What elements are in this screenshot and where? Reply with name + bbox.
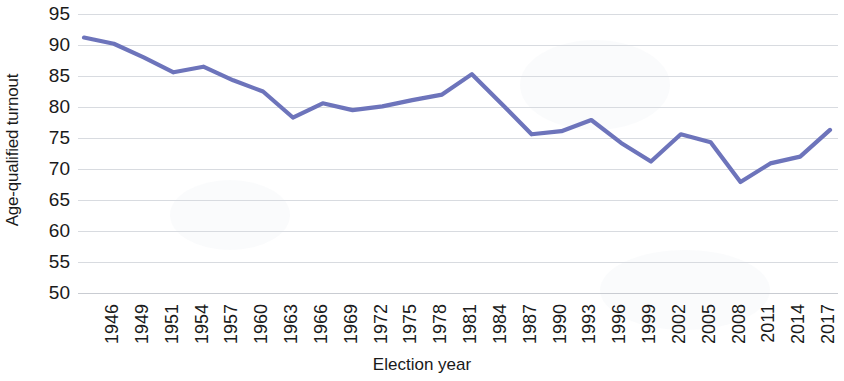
- line-chart: Age-qualified turnout 959085807570656055…: [0, 0, 844, 381]
- y-tick-label-95: 95: [26, 4, 70, 23]
- y-tick-label-75: 75: [26, 128, 70, 147]
- x-tick-label-2008: 2008: [730, 304, 748, 360]
- x-tick-label-1960: 1960: [252, 304, 270, 360]
- y-axis-title: Age-qualified turnout: [2, 0, 24, 300]
- x-tick-label-1946: 1946: [103, 304, 121, 360]
- y-tick-label-70: 70: [26, 159, 70, 178]
- x-tick-label-1990: 1990: [551, 304, 569, 360]
- x-tick-label-1949: 1949: [133, 304, 151, 360]
- y-tick-label-90: 90: [26, 35, 70, 54]
- x-tick-label-1951: 1951: [163, 304, 181, 360]
- x-tick-label-1963: 1963: [282, 304, 300, 360]
- x-tick-label-1993: 1993: [580, 304, 598, 360]
- x-tick-label-2005: 2005: [700, 304, 718, 360]
- y-tick-label-55: 55: [26, 252, 70, 271]
- x-tick-label-1984: 1984: [491, 304, 509, 360]
- x-tick-label-1966: 1966: [312, 304, 330, 360]
- x-tick-label-2011: 2011: [759, 304, 777, 360]
- y-tick-label-60: 60: [26, 221, 70, 240]
- y-tick-label-85: 85: [26, 66, 70, 85]
- x-tick-label-1972: 1972: [372, 304, 390, 360]
- y-tick-label-80: 80: [26, 97, 70, 116]
- x-axis-title: Election year: [0, 355, 844, 375]
- x-tick-label-1978: 1978: [431, 304, 449, 360]
- x-tick-label-2014: 2014: [789, 304, 807, 360]
- x-axis-tick-labels: 1946194919511954195719601963196619691972…: [78, 300, 838, 355]
- turnout-line-series: [78, 0, 838, 300]
- x-tick-label-1987: 1987: [521, 304, 539, 360]
- plot-area: [78, 0, 838, 300]
- x-tick-label-2002: 2002: [670, 304, 688, 360]
- x-tick-label-2017: 2017: [819, 304, 837, 360]
- x-tick-label-1975: 1975: [401, 304, 419, 360]
- x-tick-label-1969: 1969: [342, 304, 360, 360]
- y-tick-label-65: 65: [26, 190, 70, 209]
- x-tick-label-1996: 1996: [610, 304, 628, 360]
- y-axis-tick-labels: 95908580757065605550: [26, 0, 70, 300]
- x-tick-label-1999: 1999: [640, 304, 658, 360]
- x-tick-label-1954: 1954: [193, 304, 211, 360]
- x-tick-label-1957: 1957: [222, 304, 240, 360]
- x-tick-label-1981: 1981: [461, 304, 479, 360]
- y-tick-label-50: 50: [26, 283, 70, 302]
